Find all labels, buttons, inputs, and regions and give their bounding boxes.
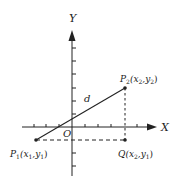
point-q — [123, 138, 127, 142]
point-p1 — [34, 138, 38, 142]
x-axis-arrow-icon — [147, 124, 157, 131]
y-axis-label: Y — [69, 12, 78, 25]
segment-d — [36, 88, 125, 140]
segment-label-d: d — [84, 93, 90, 104]
x-axis-label: X — [160, 121, 170, 134]
y-axis-ticks — [72, 48, 76, 166]
origin-label: O — [63, 128, 71, 139]
point-p2 — [123, 86, 127, 90]
distance-diagram: Y X O d P2(x2,y2) P1(x1,y1) Q(x2,y1) — [0, 0, 181, 181]
point-p1-label: P1(x1,y1) — [9, 149, 48, 160]
y-axis-arrow-icon — [69, 30, 76, 41]
point-p2-label: P2(x2,y2) — [119, 74, 158, 85]
point-q-label: Q(x2,y1) — [118, 149, 153, 160]
